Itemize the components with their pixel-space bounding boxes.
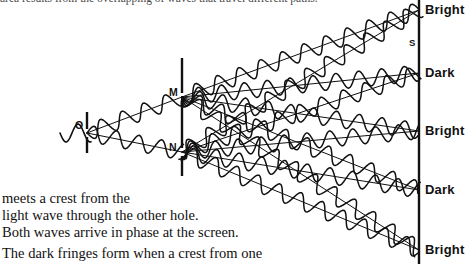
ray-o-to-m (87, 97, 182, 133)
caption-body: meets a crest from the light wave throug… (2, 190, 302, 241)
ray-n-3 (182, 152, 419, 190)
ray-m-2 (182, 97, 419, 131)
screen-point-label-s: S (409, 37, 415, 48)
caption-line-4-clip: The dark fringes form when a crest from … (2, 245, 302, 264)
caption-line-2: light wave through the other hole. (2, 207, 302, 224)
caption-line-1: meets a crest from the (2, 190, 302, 207)
screen-label-dark-2: Dark (425, 182, 455, 197)
screen-label-dark-1: Dark (425, 65, 455, 80)
slit-label-n: N (169, 141, 177, 153)
screen-label-bright-1: Bright (425, 2, 464, 17)
caption-line-4: The dark fringes form when a crest from … (2, 245, 262, 262)
source-label-o: O (75, 119, 83, 131)
slit-label-m: M (169, 86, 178, 98)
screen-label-bright-2: Bright (425, 123, 464, 138)
caption-line-3: Both waves arrive in phase at the screen… (2, 224, 302, 241)
screen-label-bright-3: Bright (425, 242, 464, 257)
